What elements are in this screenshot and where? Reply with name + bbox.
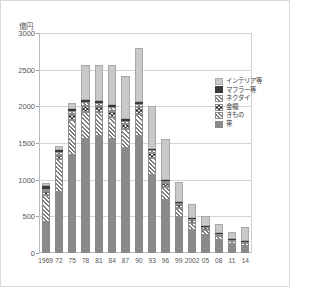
bar-segment[interactable] bbox=[42, 222, 50, 253]
bar-segment[interactable] bbox=[121, 124, 129, 130]
legend-item[interactable]: 帯 bbox=[215, 120, 287, 129]
bar-segment[interactable] bbox=[228, 232, 236, 238]
bar-segment[interactable] bbox=[95, 103, 103, 106]
bar-group[interactable] bbox=[241, 227, 249, 253]
bar-group[interactable] bbox=[55, 146, 63, 253]
bar-segment[interactable] bbox=[175, 208, 183, 218]
bar-segment[interactable] bbox=[42, 189, 50, 191]
legend-item[interactable]: ネクタイ bbox=[215, 94, 287, 103]
bar-segment[interactable] bbox=[55, 155, 63, 159]
bar-segment[interactable] bbox=[228, 241, 236, 244]
bar-group[interactable] bbox=[201, 216, 209, 253]
bar-segment[interactable] bbox=[175, 204, 183, 207]
bar-segment[interactable] bbox=[95, 112, 103, 136]
bar-segment[interactable] bbox=[161, 187, 169, 200]
bar-segment[interactable] bbox=[68, 111, 76, 114]
bar-segment[interactable] bbox=[135, 107, 143, 114]
bar-segment[interactable] bbox=[135, 136, 143, 253]
bar-segment[interactable] bbox=[68, 114, 76, 120]
bar-segment[interactable] bbox=[95, 106, 103, 112]
bar-segment[interactable] bbox=[68, 120, 76, 155]
bar-segment[interactable] bbox=[148, 106, 156, 149]
bar-segment[interactable] bbox=[121, 119, 129, 121]
bar-segment[interactable] bbox=[201, 235, 209, 253]
bar-segment[interactable] bbox=[175, 202, 183, 203]
bar-segment[interactable] bbox=[228, 244, 236, 253]
bar-segment[interactable] bbox=[188, 218, 196, 219]
bar-group[interactable] bbox=[121, 76, 129, 253]
bar-segment[interactable] bbox=[108, 139, 116, 253]
bar-segment[interactable] bbox=[121, 76, 129, 119]
bar-group[interactable] bbox=[68, 103, 76, 253]
bar-segment[interactable] bbox=[42, 195, 50, 222]
bar-group[interactable] bbox=[95, 65, 103, 253]
bar-segment[interactable] bbox=[241, 227, 249, 241]
bar-segment[interactable] bbox=[241, 243, 249, 246]
bar-segment[interactable] bbox=[148, 153, 156, 158]
bar-segment[interactable] bbox=[161, 139, 169, 180]
bar-group[interactable] bbox=[215, 224, 223, 253]
bar-group[interactable] bbox=[175, 182, 183, 253]
bar-segment[interactable] bbox=[81, 106, 89, 113]
bar-segment[interactable] bbox=[161, 181, 169, 183]
bar-segment[interactable] bbox=[55, 192, 63, 253]
bar-segment[interactable] bbox=[148, 149, 156, 150]
bar-segment[interactable] bbox=[55, 146, 63, 150]
bar-segment[interactable] bbox=[215, 236, 223, 240]
bar-segment[interactable] bbox=[81, 139, 89, 253]
bar-segment[interactable] bbox=[148, 175, 156, 253]
bar-segment[interactable] bbox=[81, 112, 89, 138]
bar-group[interactable] bbox=[161, 139, 169, 253]
legend-item[interactable]: 金襴 bbox=[215, 103, 287, 112]
bar-segment[interactable] bbox=[241, 246, 249, 253]
bar-segment[interactable] bbox=[55, 159, 63, 192]
bar-group[interactable] bbox=[108, 65, 116, 253]
bar-segment[interactable] bbox=[81, 100, 89, 102]
bar-segment[interactable] bbox=[42, 191, 50, 195]
bar-segment[interactable] bbox=[81, 102, 89, 105]
bar-segment[interactable] bbox=[121, 129, 129, 148]
bar-segment[interactable] bbox=[42, 186, 50, 189]
bar-segment[interactable] bbox=[135, 114, 143, 136]
bar-segment[interactable] bbox=[188, 223, 196, 230]
bar-group[interactable] bbox=[42, 183, 50, 253]
bar-segment[interactable] bbox=[188, 230, 196, 253]
bar-segment[interactable] bbox=[42, 183, 50, 185]
bar-group[interactable] bbox=[148, 106, 156, 253]
bar-segment[interactable] bbox=[201, 216, 209, 225]
bar-group[interactable] bbox=[135, 48, 143, 253]
bar-segment[interactable] bbox=[161, 180, 169, 181]
bar-segment[interactable] bbox=[68, 155, 76, 253]
legend-item[interactable]: マフラー等 bbox=[215, 86, 287, 95]
bar-segment[interactable] bbox=[108, 105, 116, 107]
bar-segment[interactable] bbox=[215, 234, 223, 236]
bar-segment[interactable] bbox=[188, 204, 196, 218]
bar-segment[interactable] bbox=[148, 150, 156, 153]
bar-group[interactable] bbox=[188, 204, 196, 253]
bar-segment[interactable] bbox=[68, 103, 76, 110]
bar-segment[interactable] bbox=[201, 230, 209, 235]
bar-segment[interactable] bbox=[95, 65, 103, 101]
bar-segment[interactable] bbox=[95, 136, 103, 253]
bar-segment[interactable] bbox=[55, 152, 63, 155]
bar-segment[interactable] bbox=[148, 158, 156, 175]
bar-segment[interactable] bbox=[161, 200, 169, 253]
bar-segment[interactable] bbox=[135, 104, 143, 107]
legend-item[interactable]: きもの bbox=[215, 111, 287, 120]
bar-segment[interactable] bbox=[55, 150, 63, 152]
bar-segment[interactable] bbox=[175, 202, 183, 204]
bar-segment[interactable] bbox=[135, 48, 143, 102]
bar-segment[interactable] bbox=[135, 102, 143, 104]
bar-segment[interactable] bbox=[188, 220, 196, 223]
bar-group[interactable] bbox=[81, 65, 89, 253]
bar-segment[interactable] bbox=[201, 227, 209, 229]
bar-segment[interactable] bbox=[121, 121, 129, 124]
bar-segment[interactable] bbox=[121, 148, 129, 253]
bar-segment[interactable] bbox=[108, 111, 116, 117]
bar-segment[interactable] bbox=[108, 117, 116, 139]
bar-segment[interactable] bbox=[175, 217, 183, 253]
bar-segment[interactable] bbox=[108, 107, 116, 110]
bar-segment[interactable] bbox=[68, 109, 76, 111]
bar-segment[interactable] bbox=[108, 65, 116, 106]
bar-segment[interactable] bbox=[95, 101, 103, 103]
